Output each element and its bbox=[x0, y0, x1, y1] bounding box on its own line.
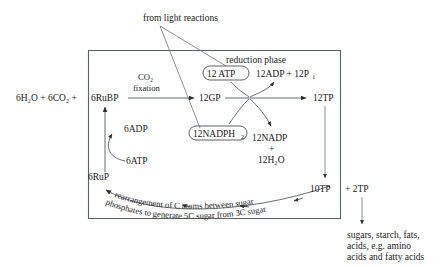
arc-cycle-to-adp bbox=[250, 82, 274, 97]
node-nadph-label: 12NADPH bbox=[193, 129, 235, 139]
co2-fixation-label-line1: CO₂ bbox=[138, 72, 153, 82]
node-atp-label: 12 ATP bbox=[207, 69, 235, 79]
node-adp-pi: 12ADP + 12P bbox=[256, 69, 309, 79]
node-rubp: 6RuBP bbox=[91, 93, 118, 103]
products-line2: acids, e.g. amino bbox=[347, 241, 411, 251]
products-line3: acids and fatty acids bbox=[347, 252, 425, 262]
node-tp2: + 2TP bbox=[345, 184, 369, 194]
node-nadp-plus: + bbox=[269, 144, 274, 154]
node-nadp: 12NADP bbox=[252, 133, 287, 143]
node-adp6: 6ADP bbox=[124, 124, 148, 134]
arc-nadph-into-cycle bbox=[229, 99, 249, 124]
node-tp10: 10TP bbox=[310, 184, 331, 194]
node-rup: 6RuP bbox=[88, 172, 109, 182]
node-gp: 12GP bbox=[199, 93, 221, 103]
node-adp-pi-subscript: i bbox=[313, 73, 315, 80]
co2-fixation-label-line2: fixation bbox=[133, 83, 160, 93]
node-nadph-subscript: 2 bbox=[241, 133, 244, 140]
recycle-curve-arrow-mid3 bbox=[294, 198, 303, 201]
node-water: 12H₂O bbox=[258, 155, 285, 165]
node-atp6: 6ATP bbox=[126, 156, 148, 166]
light-reactions-label: from light reactions bbox=[143, 13, 218, 23]
calvin-cycle-diagram: from light reactions reduction phase 6H₂… bbox=[0, 0, 448, 267]
node-tp: 12TP bbox=[313, 93, 334, 103]
leader-line-to-nadph bbox=[160, 26, 200, 128]
arc-cycle-to-nadp bbox=[250, 99, 271, 126]
reduction-phase-label: reduction phase bbox=[226, 55, 286, 65]
inputs-left-label: 6H₂O + 6CO₂ + bbox=[16, 93, 77, 103]
products-line1: sugars, starch, fats, bbox=[347, 230, 420, 240]
arc-atp6-to-adp6 bbox=[108, 134, 125, 161]
leader-line-to-atp bbox=[160, 26, 226, 66]
arc-atp-into-cycle bbox=[231, 82, 249, 97]
